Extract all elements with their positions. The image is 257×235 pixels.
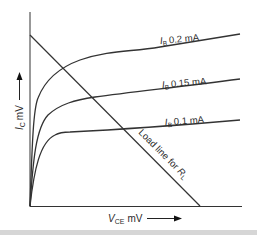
label-ib-0-1ma: IB0.1 mA (164, 114, 204, 129)
arrow-up-icon (17, 72, 23, 80)
svg-text:IB0.2 mA: IB0.2 mA (159, 31, 200, 46)
curve-ib-0-1ma (30, 120, 240, 206)
transistor-output-characteristics-diagram: IB0.2 mA IB0.15 mA IB0.1 mA Load line fo… (0, 0, 257, 235)
y-axis-label: ICmV (14, 105, 26, 130)
label-ib-0-2ma: IB0.2 mA (159, 31, 200, 46)
bottom-border-band (0, 230, 257, 235)
curve-ib-0-2ma (30, 34, 240, 206)
svg-text:VCEmV: VCEmV (108, 213, 143, 225)
arrow-right-icon (174, 216, 182, 222)
svg-text:Load line for RL: Load line for RL (136, 127, 191, 182)
curve-ib-0-15ma (30, 79, 240, 206)
label-load-line: Load line for RL (136, 127, 191, 182)
svg-text:IB0.1 mA: IB0.1 mA (164, 114, 204, 129)
label-ib-0-15ma: IB0.15 mA (161, 75, 207, 91)
svg-text:ICmV: ICmV (14, 105, 26, 130)
x-axis-label: VCEmV (108, 213, 143, 225)
svg-text:IB0.15 mA: IB0.15 mA (161, 75, 207, 91)
